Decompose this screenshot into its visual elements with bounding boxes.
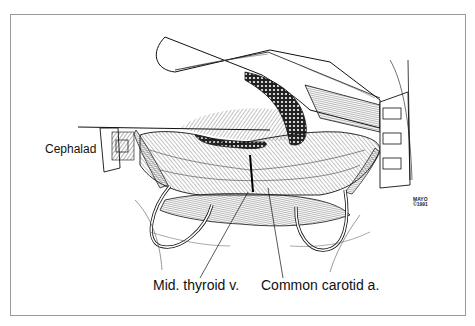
label-cephalad: Cephalad <box>45 142 96 156</box>
skin-contour-left <box>135 200 162 270</box>
illustration-figure: Cephalad Mid. thyroid v. Common carotid … <box>0 0 475 326</box>
lower-muscle-band <box>160 194 350 226</box>
label-mid-thyroid-vein: Mid. thyroid v. <box>153 277 239 293</box>
label-common-carotid-artery: Common carotid a. <box>261 277 379 293</box>
right-retractor <box>380 60 412 188</box>
artist-signature: MAYO ©1991 <box>413 197 428 207</box>
left-retractor <box>100 128 134 172</box>
signature-year: ©1991 <box>413 202 428 207</box>
thyroid-gland <box>140 132 380 195</box>
